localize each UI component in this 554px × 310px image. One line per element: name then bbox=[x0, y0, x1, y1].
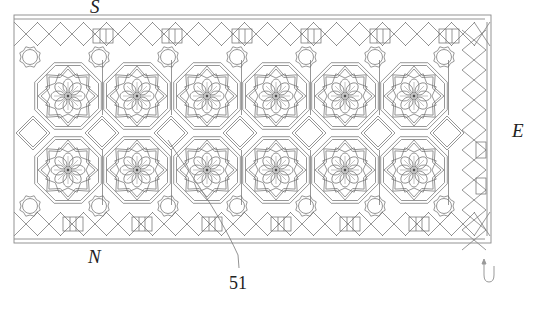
reference-numeral-51: 51 bbox=[229, 273, 247, 294]
geometric-tile-pattern-drawing bbox=[0, 0, 554, 310]
return-arrow-icon bbox=[482, 259, 494, 282]
south-label: S bbox=[90, 0, 100, 18]
north-label: N bbox=[88, 246, 101, 268]
east-label: E bbox=[512, 120, 524, 142]
